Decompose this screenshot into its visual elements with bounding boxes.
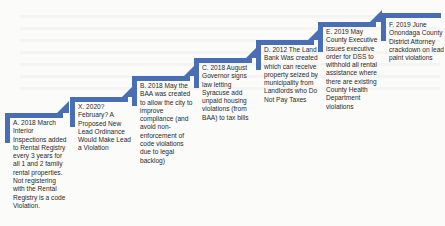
step-a-left-bar [5, 113, 10, 143]
step-x-top-bar [70, 97, 128, 102]
step-x-left-bar [70, 97, 75, 127]
step-c: C. 2018 August Governor signs law lettin… [194, 58, 256, 138]
step-d: D. 2012 The Land Bank Was created which … [256, 40, 318, 130]
step-f-text: F. 2019 June Onondaga County District At… [389, 21, 445, 62]
step-e: E. 2019 May County Executive issues exec… [318, 22, 380, 142]
step-a-text: A. 2018 March Interior Inspections added… [13, 119, 67, 210]
step-b-top-bar [132, 76, 190, 81]
step-e-left-bar [318, 22, 323, 52]
step-b-left-bar [132, 76, 137, 106]
step-f-left-bar [381, 13, 386, 41]
step-c-left-bar [194, 58, 199, 88]
step-a: A. 2018 March Interior Inspections added… [5, 113, 67, 223]
step-c-top-bar [194, 58, 252, 63]
step-x-text: X. 2020? February? A Proposed New Lead O… [78, 103, 132, 153]
step-b: B. 2018 May the BAA was created to allow… [132, 76, 194, 176]
step-x: X. 2020? February? A Proposed New Lead O… [70, 97, 132, 177]
step-d-top-bar [256, 40, 314, 45]
step-b-text: B. 2018 May the BAA was created to allow… [140, 82, 196, 165]
step-d-left-bar [256, 40, 261, 70]
step-d-text: D. 2012 The Land Bank Was created which … [264, 46, 320, 104]
step-c-text: C. 2018 August Governor signs law lettin… [202, 64, 258, 122]
step-e-text: E. 2019 May County Executive issues exec… [326, 28, 382, 111]
step-a-top-bar [5, 113, 63, 118]
step-f: F. 2019 June Onondaga County District At… [381, 13, 445, 83]
step-a-arrow-icon [57, 101, 69, 113]
step-e-top-bar [318, 22, 376, 27]
step-f-top-bar [381, 13, 441, 18]
